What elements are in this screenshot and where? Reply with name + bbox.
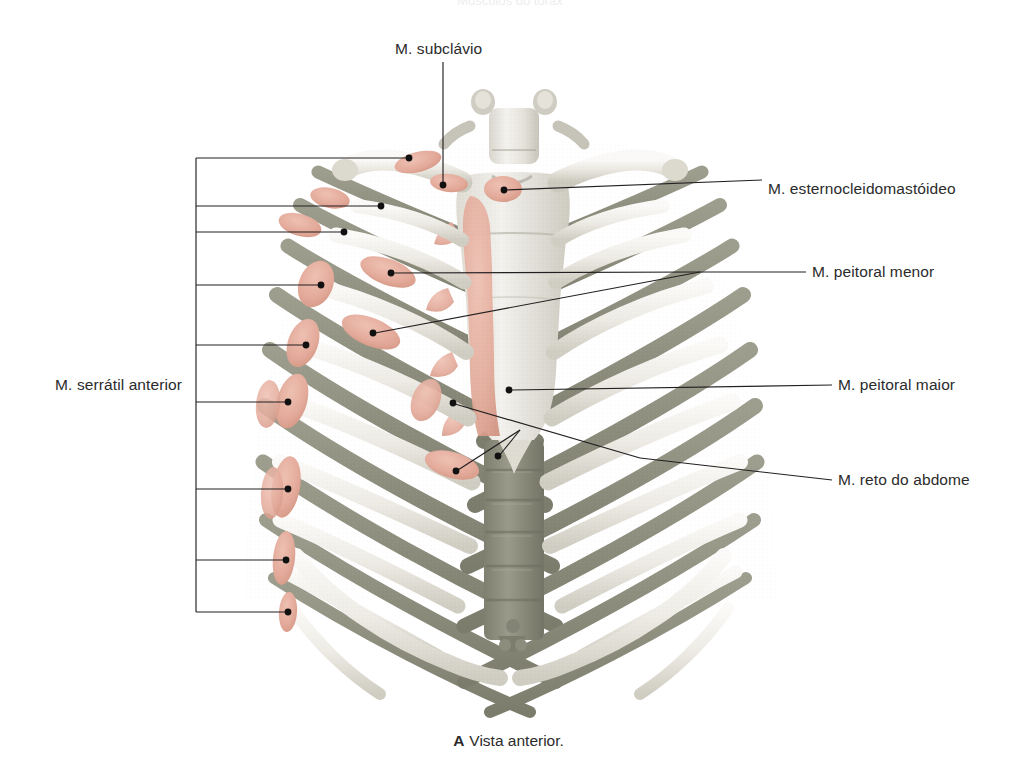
label-pectoralis-major[interactable]: M. peitoral maior xyxy=(838,376,955,394)
leader-dot-rectus-abdominis-3 xyxy=(495,453,502,460)
leader-dot-rectus-abdominis-2 xyxy=(453,468,460,475)
caption-text: Vista anterior. xyxy=(469,732,564,749)
label-rectus-abdominis[interactable]: M. reto do abdome xyxy=(838,471,970,489)
label-subclavius[interactable]: M. subclávio xyxy=(395,40,482,58)
leader-dot-rectus-abdominis-1 xyxy=(450,400,457,407)
label-pectoralis-minor[interactable]: M. peitoral menor xyxy=(812,263,934,281)
leader-dot-sternocleidomastoid xyxy=(501,187,508,194)
label-serratus-anterior[interactable]: M. serrátil anterior xyxy=(0,376,182,394)
leader-dot-pectoralis-major xyxy=(506,387,513,394)
caption-letter: A xyxy=(453,732,464,749)
label-sternocleidomastoid[interactable]: M. esternocleidomastóideo xyxy=(768,180,956,198)
anatomy-figure: Músculos do tórax xyxy=(0,0,1017,764)
leader-dot-pectoralis-minor-1 xyxy=(388,270,395,277)
leader-dot-pectoralis-minor-2 xyxy=(370,330,377,337)
figure-caption: AVista anterior. xyxy=(0,732,1017,750)
leader-dot-subclavius xyxy=(440,182,447,189)
